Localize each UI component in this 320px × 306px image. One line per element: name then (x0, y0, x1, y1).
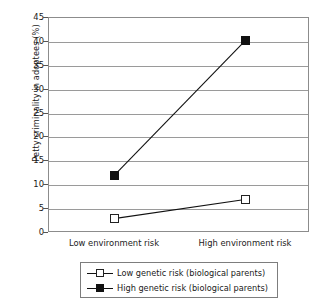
filled-square-icon (96, 284, 104, 292)
data-point-marker (241, 36, 250, 45)
legend-label: Low genetic risk (biological parents) (117, 269, 265, 278)
legend-label: High genetic risk (biological parents) (117, 284, 268, 293)
chart-legend: Low genetic risk (biological parents)Hig… (80, 262, 278, 298)
data-point-marker (110, 214, 119, 223)
x-tick-label: High environment risk (170, 238, 320, 248)
x-tick-label: Low environment risk (39, 238, 189, 248)
data-point-marker (241, 195, 250, 204)
legend-marker-icon (87, 283, 113, 294)
legend-item: Low genetic risk (biological parents) (81, 266, 277, 281)
legend-item: High genetic risk (biological parents) (81, 281, 277, 296)
series-line-1 (114, 41, 245, 176)
data-point-marker (110, 171, 119, 180)
legend-marker-icon (87, 268, 113, 279)
series-lines (0, 0, 320, 306)
chart-figure: Petty criminality in adoptees (%) 051015… (0, 0, 320, 306)
series-line-0 (114, 200, 245, 219)
open-square-icon (96, 269, 104, 277)
